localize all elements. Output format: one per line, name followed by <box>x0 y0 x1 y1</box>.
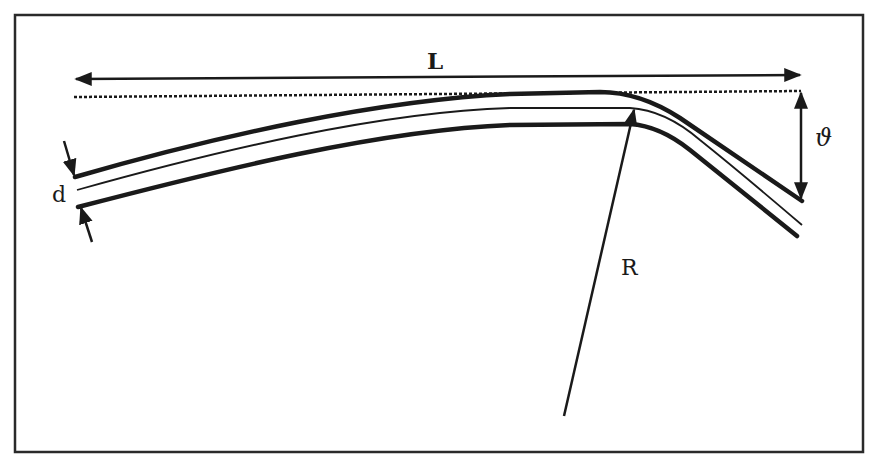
length-label: L <box>427 47 443 74</box>
fiber-lower-edge <box>78 124 797 236</box>
thickness-arrow-bottom <box>81 208 92 242</box>
fiber-upper-edge <box>75 92 802 201</box>
radius-label: R <box>621 255 639 280</box>
thickness-label: d <box>52 182 66 207</box>
length-arrow <box>76 75 800 79</box>
thickness-arrow-top <box>64 141 74 175</box>
angle-label: ϑ <box>815 124 832 152</box>
reference-dashed-line <box>74 91 801 97</box>
fiber-bend-diagram: L d R ϑ <box>0 0 871 463</box>
figure-frame <box>15 15 863 452</box>
